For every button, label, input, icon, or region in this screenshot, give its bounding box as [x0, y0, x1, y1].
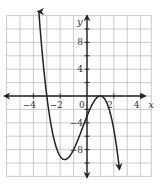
x-tick-label: 4 — [134, 100, 140, 110]
y-tick-label: 4 — [77, 64, 83, 74]
y-tick-label: −4 — [70, 118, 84, 128]
cubic-graph: −4−202484−4−8xy — [0, 0, 161, 184]
y-axis-label: y — [76, 16, 83, 27]
y-tick-label: 8 — [77, 37, 83, 47]
x-tick-label: −4 — [23, 100, 37, 110]
x-tick-label: 0 — [79, 100, 85, 110]
x-tick-label: 2 — [107, 100, 113, 110]
y-tick-label: −8 — [70, 145, 84, 155]
x-tick-label: −2 — [50, 100, 63, 110]
tick-labels: −4−202484−4−8xy — [23, 16, 155, 155]
x-axis-label: x — [148, 99, 154, 110]
